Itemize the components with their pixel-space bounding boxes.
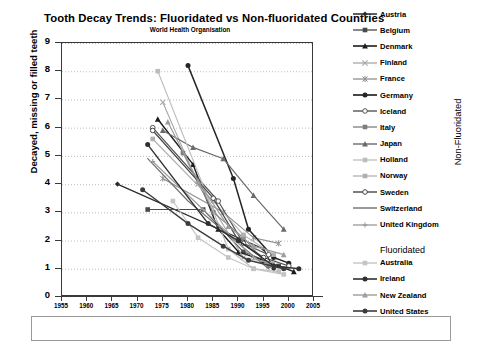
bottom-caption-box: [31, 316, 451, 341]
legend-marker-icon: [352, 7, 378, 21]
legend-item-ireland[interactable]: Ireland: [352, 271, 482, 287]
legend-marker-icon: [352, 185, 378, 199]
legend-item-label: Denmark: [378, 42, 413, 51]
legend-item-label: Finland: [378, 58, 407, 67]
legend-marker-icon: [352, 56, 378, 70]
x-axis-line: [55, 296, 323, 297]
legend-marker-icon: [352, 104, 378, 118]
x-tick-mark: [212, 296, 213, 301]
legend-item-label: Japan: [378, 139, 402, 148]
legend-item-label: Austria: [378, 10, 406, 19]
legend-marker-icon: [352, 256, 378, 270]
legend-marker-icon: [352, 72, 378, 86]
legend-item-australia[interactable]: Australia: [352, 255, 482, 271]
legend-marker-icon: [352, 120, 378, 134]
plot-area: [61, 42, 313, 296]
legend-item-switzerland[interactable]: Switzerland: [352, 200, 482, 216]
x-tick-mark: [111, 296, 112, 301]
legend-item-label: New Zealand: [378, 291, 426, 300]
x-tick-mark: [313, 296, 314, 301]
chart-subtitle: World Health Organisation: [44, 26, 336, 33]
legend-item-label: Sweden: [378, 188, 409, 197]
x-tick-mark: [162, 296, 163, 301]
x-tick-mark: [61, 296, 62, 301]
y-axis-title: Decayed, missing or filled teeth: [28, 17, 39, 187]
legend-item-label: Australia: [378, 258, 413, 267]
legend-marker-icon: [352, 23, 378, 37]
legend-marker-icon: [352, 39, 378, 53]
legend-item-belgium[interactable]: Belgium: [352, 22, 482, 38]
x-tick-mark: [288, 296, 289, 301]
x-tick-mark: [137, 296, 138, 301]
legend-marker-icon: [352, 288, 378, 302]
series-new-zealand: [165, 119, 287, 257]
legend-marker-icon: [352, 153, 378, 167]
legend-header-fluoridated: Fluoridated: [352, 233, 482, 255]
legend-item-label: Norway: [378, 171, 407, 180]
chart-page: Tooth Decay Trends: Fluoridated vs Non-f…: [0, 0, 482, 341]
legend-item-label: Germany: [378, 91, 413, 100]
x-tick-label: 2005: [298, 302, 328, 309]
legend-item-austria[interactable]: Austria: [352, 6, 482, 22]
legend-item-label: France: [378, 74, 405, 83]
legend-item-label: Iceland: [378, 107, 406, 116]
legend-item-label: Holland: [378, 155, 408, 164]
legend-marker-icon: [352, 169, 378, 183]
legend-item-label: Italy: [378, 123, 395, 132]
y-tick-label: 2: [30, 233, 50, 244]
chart-title: Tooth Decay Trends: Fluoridated vs Non-f…: [44, 12, 336, 24]
series-canvas: [62, 43, 314, 297]
legend-marker-icon: [352, 88, 378, 102]
legend-item-united-kingdom[interactable]: United Kingdom: [352, 216, 482, 232]
x-tick-mark: [187, 296, 188, 301]
series-denmark: [155, 116, 297, 274]
x-tick-mark: [86, 296, 87, 301]
y-tick-label: 0: [30, 289, 50, 300]
x-tick-mark: [263, 296, 264, 301]
y-tick-label: 3: [30, 204, 50, 215]
legend-group-label-non-fluoridated: Non-Fluoridated: [453, 72, 463, 192]
legend-item-label: United States: [378, 307, 429, 316]
legend-marker-icon: [352, 218, 378, 232]
legend-item-label: United Kingdom: [378, 220, 439, 229]
legend-item-finland[interactable]: Finland: [352, 55, 482, 71]
x-tick-mark: [237, 296, 238, 301]
legend-marker-icon: [352, 137, 378, 151]
legend-item-new-zealand[interactable]: New Zealand: [352, 287, 482, 303]
legend-marker-icon: [352, 201, 378, 215]
legend-item-label: Ireland: [378, 274, 405, 283]
legend-item-label: Belgium: [378, 26, 410, 35]
legend-marker-icon: [352, 272, 378, 286]
y-tick-label: 1: [30, 261, 50, 272]
legend-item-label: Switzerland: [378, 204, 422, 213]
legend-item-denmark[interactable]: Denmark: [352, 38, 482, 54]
